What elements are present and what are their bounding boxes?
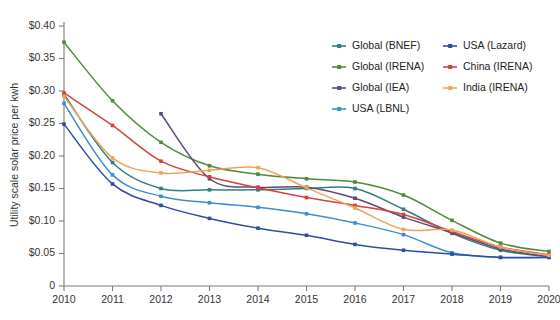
- series-point: [499, 245, 503, 249]
- y-tick-label: $0.25: [29, 116, 55, 128]
- series-point: [62, 40, 66, 44]
- series-point: [159, 204, 163, 208]
- legend-item-global-bnef[interactable]: Global (BNEF): [332, 39, 420, 51]
- x-tick-label: 2017: [392, 293, 416, 305]
- series-point: [256, 206, 260, 210]
- x-axis-ticks: 2010201120122013201420152016201720182019…: [52, 286, 560, 305]
- legend-swatch-marker: [337, 86, 341, 90]
- legend-label: Global (IEA): [352, 81, 409, 93]
- series-point: [353, 196, 357, 200]
- series-point: [402, 208, 406, 212]
- x-tick-label: 2015: [295, 293, 319, 305]
- series-point: [305, 212, 309, 216]
- series-line: [64, 42, 549, 251]
- legend-label: USA (LBNL): [352, 102, 409, 114]
- legend-swatch-marker: [337, 107, 341, 111]
- series-point: [353, 180, 357, 184]
- series-point: [450, 228, 454, 232]
- series-point: [402, 213, 406, 217]
- x-tick-label: 2012: [149, 293, 173, 305]
- series-point: [159, 171, 163, 175]
- line-chart: Utility scale solar price per kwh 0$0.05…: [0, 0, 560, 320]
- series-point: [547, 254, 551, 258]
- y-tick-label: $0.05: [29, 246, 55, 258]
- series-point: [499, 256, 503, 260]
- x-tick-label: 2019: [489, 293, 513, 305]
- y-axis-title: Utility scale solar price per kwh: [8, 83, 20, 227]
- series-point: [62, 102, 66, 106]
- legend-item-global-irena[interactable]: Global (IRENA): [332, 60, 424, 72]
- series-point: [111, 99, 115, 103]
- series-point: [402, 233, 406, 237]
- series-point: [353, 187, 357, 191]
- series-point: [62, 94, 66, 98]
- series-point: [305, 234, 309, 238]
- legend-item-china-irena[interactable]: China (IRENA): [443, 60, 532, 72]
- series-china-irena: [62, 91, 551, 256]
- y-tick-label: $0.10: [29, 214, 55, 226]
- series-point: [62, 122, 66, 126]
- series-point: [208, 164, 212, 168]
- series-point: [450, 252, 454, 256]
- legend-item-india-irena[interactable]: India (IRENA): [443, 81, 528, 93]
- series-point: [402, 228, 406, 232]
- series-point: [547, 250, 551, 254]
- x-tick-label: 2013: [198, 293, 222, 305]
- x-tick-label: 2018: [440, 293, 464, 305]
- legend-label: China (IRENA): [463, 60, 532, 72]
- series-point: [256, 226, 260, 230]
- legend-item-usa-lbnl[interactable]: USA (LBNL): [332, 102, 409, 114]
- legend-swatch-marker: [448, 86, 452, 90]
- series-point: [256, 166, 260, 170]
- x-tick-label: 2016: [343, 293, 367, 305]
- legend-swatch-marker: [337, 65, 341, 69]
- series-point: [159, 141, 163, 145]
- legend-label: Global (IRENA): [352, 60, 424, 72]
- series-point: [208, 188, 212, 192]
- series-point: [111, 161, 115, 165]
- series-point: [208, 175, 212, 179]
- series-line: [64, 93, 549, 255]
- series-point: [353, 243, 357, 247]
- legend-label: India (IRENA): [463, 81, 528, 93]
- chart-container: Utility scale solar price per kwh 0$0.05…: [0, 0, 560, 320]
- series-line: [64, 96, 549, 255]
- legend-swatch-marker: [448, 44, 452, 48]
- series-point: [208, 217, 212, 221]
- series-global-iea: [159, 112, 551, 259]
- series-point: [305, 177, 309, 181]
- legend-swatch-marker: [448, 65, 452, 69]
- series-point: [305, 196, 309, 200]
- series-point: [256, 172, 260, 176]
- chart-legend: Global (BNEF)Global (IRENA)Global (IEA)U…: [332, 39, 532, 114]
- x-tick-label: 2010: [52, 293, 76, 305]
- series-point: [111, 124, 115, 128]
- series-point: [62, 91, 66, 95]
- series-point: [111, 173, 115, 177]
- series-point: [402, 248, 406, 252]
- series-point: [159, 112, 163, 116]
- y-tick-label: 0: [49, 279, 55, 291]
- legend-item-usa-lazard[interactable]: USA (Lazard): [443, 39, 526, 51]
- series-point: [353, 206, 357, 210]
- series-global-irena: [62, 40, 551, 253]
- y-tick-label: $0.40: [29, 19, 55, 31]
- series-point: [111, 156, 115, 160]
- series-point: [159, 195, 163, 199]
- x-tick-label: 2014: [246, 293, 270, 305]
- series-point: [159, 187, 163, 191]
- y-tick-label: $0.15: [29, 181, 55, 193]
- series-point: [499, 241, 503, 245]
- series-point: [450, 219, 454, 223]
- legend-item-global-iea[interactable]: Global (IEA): [332, 81, 409, 93]
- y-axis-title-group: Utility scale solar price per kwh: [8, 83, 20, 227]
- series-line: [161, 114, 549, 257]
- legend-label: USA (Lazard): [463, 39, 526, 51]
- y-tick-label: $0.20: [29, 149, 55, 161]
- y-axis-ticks: 0$0.05$0.10$0.15$0.20$0.25$0.30$0.35$0.4…: [29, 19, 64, 291]
- series-point: [111, 182, 115, 186]
- series-point: [256, 186, 260, 190]
- y-tick-label: $0.35: [29, 51, 55, 63]
- series-point: [305, 186, 309, 190]
- series-group: [62, 40, 551, 259]
